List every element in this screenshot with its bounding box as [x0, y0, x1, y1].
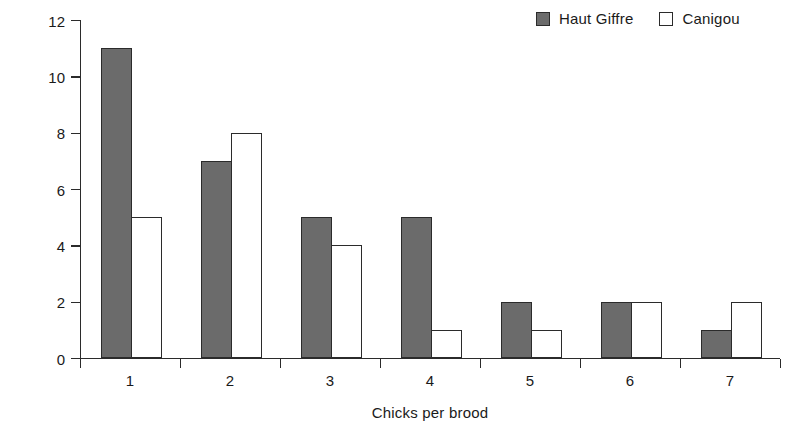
bar-chart: Haut Giffre Canigou Number of broods 024…: [0, 0, 800, 440]
bar-haut-giffre-5: [501, 302, 532, 358]
x-axis-line: [80, 358, 780, 359]
x-axis-tick-label: 3: [280, 372, 380, 389]
x-axis-tick: [580, 359, 581, 368]
y-axis-tick: 12: [71, 20, 80, 21]
x-axis-tick: [780, 359, 781, 368]
bar-group: [180, 20, 280, 358]
y-axis-tick: 6: [71, 189, 80, 190]
x-axis-tick: [180, 359, 181, 368]
bar-canigou-1: [131, 217, 162, 358]
x-axis-tick: [80, 359, 81, 368]
y-axis-tick-label: 10: [48, 69, 65, 86]
bar-haut-giffre-4: [401, 217, 432, 358]
x-axis-tick: [380, 359, 381, 368]
bar-canigou-4: [431, 330, 462, 358]
y-axis-tick-label: 8: [57, 125, 65, 142]
bar-group: [580, 20, 680, 358]
bar-canigou-5: [531, 330, 562, 358]
bar-group: [680, 20, 780, 358]
y-axis-tick: 4: [71, 245, 80, 246]
bar-canigou-3: [331, 245, 362, 358]
x-axis-tick-label: 6: [580, 372, 680, 389]
y-axis-tick-label: 6: [57, 181, 65, 198]
plot-area: 024681012 1234567: [80, 20, 780, 358]
y-axis-tick-label: 12: [48, 12, 65, 29]
x-axis-tick-label: 2: [180, 372, 280, 389]
x-axis-tick: [280, 359, 281, 368]
bar-haut-giffre-1: [101, 48, 132, 358]
bar-canigou-2: [231, 133, 262, 358]
bar-canigou-6: [631, 302, 662, 358]
x-axis-title: Chicks per brood: [80, 404, 780, 421]
bar-group: [80, 20, 180, 358]
y-axis-tick: 10: [71, 76, 80, 77]
bar-group: [280, 20, 380, 358]
bar-haut-giffre-6: [601, 302, 632, 358]
x-axis-tick: [680, 359, 681, 368]
bar-group: [380, 20, 480, 358]
x-axis-tick-label: 7: [680, 372, 780, 389]
y-axis-tick: 0: [71, 358, 80, 359]
y-axis-tick-label: 0: [57, 350, 65, 367]
x-axis-tick-label: 1: [80, 372, 180, 389]
y-axis-tick-label: 4: [57, 238, 65, 255]
bar-group: [480, 20, 580, 358]
bar-haut-giffre-3: [301, 217, 332, 358]
bar-haut-giffre-2: [201, 161, 232, 358]
y-axis-tick: 8: [71, 133, 80, 134]
y-axis-tick: 2: [71, 302, 80, 303]
bar-canigou-7: [731, 302, 762, 358]
x-axis-tick-label: 5: [480, 372, 580, 389]
bar-haut-giffre-7: [701, 330, 732, 358]
y-axis-tick-label: 2: [57, 294, 65, 311]
x-axis-tick-label: 4: [380, 372, 480, 389]
x-axis-tick: [480, 359, 481, 368]
